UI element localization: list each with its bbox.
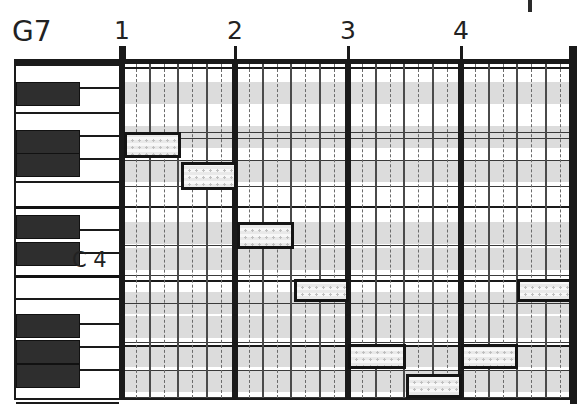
white-key-separator: [16, 298, 119, 300]
measure-number-3: 3: [340, 18, 356, 43]
black-key-D#5[interactable]: [16, 215, 80, 239]
timeline-ruler[interactable]: G7 1234: [0, 0, 588, 58]
note-D5[interactable]: [181, 162, 237, 190]
beat-line: [545, 64, 547, 398]
note-G4[interactable]: [517, 279, 572, 302]
white-key-separator: [16, 206, 119, 209]
note-grid[interactable]: [121, 62, 574, 400]
note-texture: [184, 165, 234, 187]
black-key-F#4[interactable]: [16, 364, 80, 388]
white-key-separator: [16, 275, 119, 278]
note-F5[interactable]: [124, 132, 181, 158]
subdivision-line: [164, 64, 165, 398]
beat-line: [319, 64, 321, 398]
subdivision-line: [305, 64, 306, 398]
note-texture: [297, 282, 346, 299]
note-texture: [409, 377, 459, 395]
subdivision-line: [418, 64, 419, 398]
note-B3[interactable]: [406, 374, 462, 398]
right-frame-border: [570, 46, 577, 404]
beat-line: [206, 64, 208, 398]
black-key-C#5[interactable]: [16, 242, 80, 266]
note-texture: [464, 347, 515, 366]
black-key-G#5[interactable]: [16, 130, 80, 154]
playhead-stub-icon: [528, 0, 532, 12]
note-texture: [127, 135, 178, 155]
subdivision-line: [334, 64, 335, 398]
subdivision-line: [192, 64, 193, 398]
beat-line: [177, 64, 179, 398]
note-B4[interactable]: [237, 222, 294, 249]
white-key-separator: [16, 112, 119, 114]
note-texture: [240, 225, 291, 246]
beat-line: [432, 64, 434, 398]
black-key-A#5[interactable]: [16, 82, 80, 106]
piano-keyboard[interactable]: [14, 62, 121, 400]
black-key-F#5[interactable]: [16, 153, 80, 177]
white-key-separator: [16, 64, 119, 66]
subdivision-line: [447, 64, 448, 398]
chord-label: G7: [12, 18, 52, 46]
subdivision-line: [136, 64, 137, 398]
middle-c-label: C 4: [72, 250, 107, 271]
subdivision-line: [531, 64, 532, 398]
measure-number-2: 2: [227, 18, 243, 43]
measure-number-1: 1: [114, 18, 130, 43]
bar-line: [121, 64, 125, 398]
note-D4[interactable]: [348, 344, 406, 369]
black-key-A#4[interactable]: [16, 314, 80, 338]
beat-line: [149, 64, 151, 398]
white-key-separator: [16, 181, 119, 183]
note-D4[interactable]: [461, 344, 518, 369]
note-texture: [520, 282, 569, 299]
piano-roll-editor: G7 1234 C 4: [0, 0, 588, 415]
note-texture: [351, 347, 403, 366]
subdivision-line: [221, 64, 222, 398]
note-G4[interactable]: [294, 279, 349, 302]
white-key-separator: [16, 402, 119, 404]
subdivision-line: [560, 64, 561, 398]
measure-number-4: 4: [453, 18, 469, 43]
black-key-G#4[interactable]: [16, 340, 80, 364]
